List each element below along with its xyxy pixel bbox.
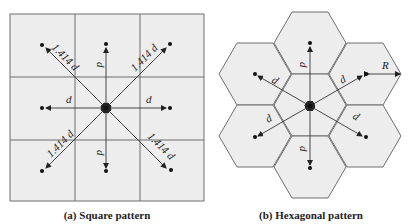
- neighbor-node: [253, 72, 257, 76]
- neighbor-node: [40, 169, 44, 173]
- neighbor-node: [253, 135, 257, 139]
- neighbor-node: [40, 43, 44, 47]
- neighbor-node: [168, 106, 172, 110]
- distance-label-down: d: [298, 146, 310, 152]
- distance-label-up: d: [298, 62, 310, 68]
- neighbor-node: [169, 168, 173, 172]
- distance-label-down: d: [95, 150, 107, 156]
- caption-square-pattern: (a) Square pattern: [64, 209, 151, 222]
- center-node: [308, 104, 312, 108]
- caption-hexagonal-pattern: (b) Hexagonal pattern: [259, 209, 363, 222]
- neighbor-node: [40, 106, 44, 110]
- neighbor-node: [364, 72, 368, 76]
- distance-label-left: d: [66, 93, 72, 105]
- hexagonal-pattern-panel: d d d d d d R (b) Hexagonal pattern: [219, 12, 401, 222]
- center-node: [104, 106, 108, 110]
- square-pattern-panel: d d d d 1.414 d 1.414 d 1.414 d 1.414 d …: [10, 14, 204, 222]
- neighbor-node: [364, 135, 368, 139]
- radius-label: R: [381, 59, 389, 71]
- neighbor-node: [308, 166, 312, 170]
- cell-pattern-figure: d d d d 1.414 d 1.414 d 1.414 d 1.414 d …: [0, 0, 408, 224]
- distance-label-right: d: [146, 93, 152, 105]
- neighbor-node: [104, 42, 108, 46]
- distance-label-up: d: [95, 62, 107, 68]
- neighbor-node: [168, 42, 172, 46]
- neighbor-node: [104, 169, 108, 173]
- neighbor-node: [308, 41, 312, 45]
